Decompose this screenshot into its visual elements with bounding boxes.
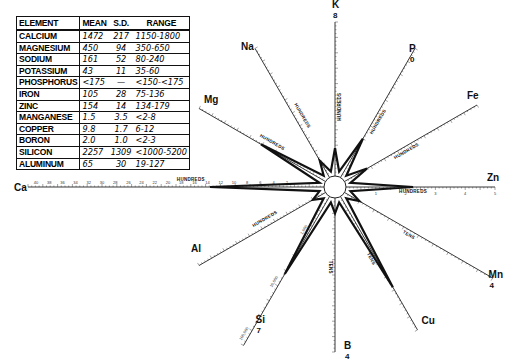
zn-tick-label: 3: [434, 191, 437, 196]
axis-tick: [373, 210, 375, 213]
axis-tick: [402, 227, 404, 230]
unit-label-k: HUNDREDS: [337, 93, 342, 121]
axis-label-cu: Cu: [422, 315, 435, 326]
axis-tick: [307, 137, 310, 139]
axis-tick: [424, 136, 426, 139]
unit-label-b: TENS: [328, 261, 333, 274]
unit-label-mn: TENS: [402, 229, 416, 240]
axis-tick: [415, 330, 418, 332]
axis-tick: [210, 256, 212, 259]
axis-tick: [464, 113, 466, 116]
axis-tick: [224, 121, 226, 124]
axis-number-k: 8: [333, 11, 338, 20]
axis-tick: [261, 226, 263, 229]
ca-tick-label: 18: [179, 180, 184, 185]
axis-label-ca: Ca: [14, 182, 27, 193]
axis-label-al: Al: [191, 243, 201, 254]
ca-tick-label: 24: [139, 180, 144, 185]
ca-tick-label: 36: [60, 180, 65, 185]
axis-number-mn: 4: [490, 281, 495, 290]
axis-label-mn: Mn: [489, 269, 503, 280]
ca-tick-label: 14: [205, 180, 210, 185]
axis-tick: [212, 113, 214, 116]
axis-tick: [262, 60, 265, 62]
axis-tick: [392, 290, 395, 292]
axis-label-na: Na: [241, 41, 254, 52]
axis-tick: [275, 284, 278, 286]
axis-tick: [437, 128, 439, 131]
unit-label-mg: HUNDREDS: [259, 133, 286, 151]
axis-tick: [447, 252, 449, 255]
axis-tick: [292, 111, 295, 113]
axis-tick: [198, 263, 200, 266]
axis-tick: [235, 241, 237, 244]
ca-tick-label: 40: [34, 180, 39, 185]
axis-label-fe: Fe: [467, 90, 479, 101]
axis-tick: [400, 303, 403, 305]
axis-tick: [417, 235, 419, 238]
axis-tick: [273, 219, 275, 222]
zn-tick-label: 5: [494, 191, 497, 196]
ca-tick-label: 10: [232, 180, 237, 185]
zn-tick-label: 4: [464, 191, 467, 196]
ca-tick-label: 34: [73, 180, 78, 185]
axis-tick: [299, 205, 301, 208]
ca-tick-label: 28: [113, 180, 118, 185]
axis-label-p: P: [409, 43, 416, 54]
axis-tick: [237, 128, 239, 131]
axis-tick: [270, 73, 273, 75]
axis-label-b: B: [344, 340, 351, 351]
axis-tick: [267, 299, 270, 301]
axis-tick: [476, 269, 478, 272]
axis-tick: [315, 150, 318, 152]
ca-tick-label: 38: [47, 180, 52, 185]
axis-tick: [385, 100, 388, 102]
axis-tick: [461, 261, 463, 264]
axis-tick: [400, 74, 403, 76]
axis-tick: [241, 344, 244, 346]
ca-tick-label: 22: [153, 180, 158, 185]
axis-label-mg: Mg: [204, 94, 218, 105]
axis-tick: [248, 234, 250, 237]
ca-tick-label: 12: [219, 180, 224, 185]
axis-tick: [477, 105, 479, 108]
axis-tick: [393, 87, 396, 89]
ca-tick-label: 30: [100, 180, 105, 185]
ca-tick-label: 26: [126, 180, 131, 185]
axis-tick: [255, 47, 258, 49]
axis-tick: [371, 166, 373, 169]
axis-number-p: 0: [410, 55, 415, 64]
unit-label-na: HUNDREDS: [293, 102, 311, 129]
axis-tick: [286, 212, 288, 215]
radial-chart: HUNDREDSK8HUNDREDSP0HUNDREDSFeHUNDREDSZn…: [0, 0, 509, 364]
axis-tick: [250, 329, 253, 331]
unit-label-zn: HUNDREDS: [399, 189, 427, 194]
axis-tick: [346, 210, 349, 212]
axis-number-si: 7: [257, 326, 262, 335]
axis-label-k: K: [332, 0, 340, 10]
axis-tick: [451, 120, 453, 123]
zn-tick-label: 1: [375, 191, 378, 196]
axis-tick: [300, 124, 303, 126]
axis-label-zn: Zn: [487, 172, 499, 183]
axis-tick: [285, 99, 288, 101]
unit-label-al: HUNDREDS: [251, 210, 278, 228]
si-tick-label: 100,000: [238, 325, 250, 341]
axis-number-b: 4: [345, 352, 350, 361]
center-circle: [324, 176, 346, 198]
ca-tick-label: 16: [192, 180, 197, 185]
axis-label-si: Si: [256, 314, 266, 325]
ca-tick-label: 20: [166, 180, 171, 185]
axis-tick: [407, 317, 410, 319]
ca-tick-label: 32: [87, 180, 92, 185]
axis-tick: [384, 159, 386, 162]
axis-tick: [199, 106, 201, 109]
ca-tick-label: 8: [246, 180, 249, 185]
axis-tick: [432, 244, 434, 247]
axis-tick: [387, 218, 389, 221]
axis-tick: [223, 248, 225, 251]
data-polygon: [210, 139, 413, 287]
axis-tick: [250, 135, 252, 138]
axis-tick: [277, 86, 280, 88]
